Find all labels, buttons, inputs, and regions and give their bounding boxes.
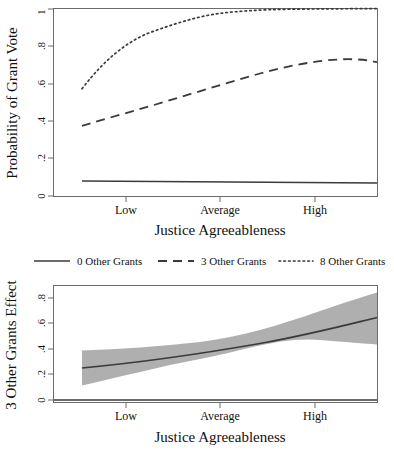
top-panel-ytick-label-8: .8 (36, 42, 47, 50)
top-panel-series-8-other-grants (82, 9, 377, 89)
top-panel-xtick-label-high: High (303, 203, 327, 217)
bottom-panel-ytick-label-6: .6 (36, 319, 47, 327)
legend-label-0-other-grants: 0 Other Grants (77, 255, 142, 267)
top-panel-ytick-label-10: 1 (36, 9, 47, 14)
figure-container: Probability of Grant Vote 0 .2 .4 .6 .8 … (0, 0, 394, 454)
top-panel-ytick-label-0: 0 (36, 193, 47, 198)
effect-panel: 3 Other Grants Effect 0 .2 .4 .6 .8 (3, 280, 378, 445)
top-panel-y-tickmarks (48, 9, 53, 196)
legend: 0 Other Grants 3 Other Grants 8 Other Gr… (34, 255, 385, 267)
bottom-panel-x-axis-title: Justice Agreeableness (154, 429, 285, 445)
top-panel-xtick-label-average: Average (200, 203, 240, 217)
top-panel-ytick-label-4: .4 (36, 116, 47, 125)
probability-panel: Probability of Grant Vote 0 .2 .4 .6 .8 … (4, 9, 378, 239)
legend-label-8-other-grants: 8 Other Grants (320, 255, 385, 267)
top-panel-y-axis-title: Probability of Grant Vote (4, 27, 20, 179)
bottom-panel-confidence-band (82, 293, 377, 386)
bottom-panel-y-tickmarks (48, 298, 53, 400)
bottom-panel-xtick-label-low: Low (115, 409, 137, 423)
top-panel-xtick-label-low: Low (115, 203, 137, 217)
figure-svg: Probability of Grant Vote 0 .2 .4 .6 .8 … (0, 0, 394, 454)
bottom-panel-ytick-label-4: .4 (36, 344, 47, 353)
top-panel-series-0-other-grants (82, 181, 377, 183)
bottom-panel-ytick-label-0: 0 (36, 397, 47, 402)
legend-label-3-other-grants: 3 Other Grants (201, 255, 266, 267)
top-panel-series-3-other-grants (82, 59, 377, 126)
top-panel-x-axis-title: Justice Agreeableness (154, 222, 285, 238)
bottom-panel-ytick-label-8: .8 (36, 294, 47, 302)
top-panel-plot-frame (54, 9, 378, 197)
bottom-panel-xtick-label-average: Average (200, 409, 240, 423)
bottom-panel-y-axis-title: 3 Other Grants Effect (3, 280, 19, 410)
top-panel-ytick-label-6: .6 (36, 80, 47, 88)
top-panel-ytick-label-2: .2 (36, 154, 47, 162)
bottom-panel-xtick-label-high: High (303, 409, 327, 423)
bottom-panel-ytick-label-2: .2 (36, 370, 47, 378)
